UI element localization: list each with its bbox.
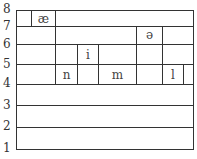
- y-label-1: 1: [3, 142, 11, 154]
- y-label-2: 2: [3, 120, 11, 132]
- y-label-8: 8: [3, 3, 11, 15]
- segment-l: l: [162, 64, 184, 85]
- segment-schwa-label: ə: [137, 28, 162, 42]
- segment-i: i: [77, 44, 99, 85]
- pitch-level-diagram: 8 7 6 5 4 3 2 1 æ n i m ə l: [0, 0, 197, 159]
- gridline-2: [16, 127, 194, 128]
- segment-m-label: m: [99, 68, 136, 82]
- y-label-6: 6: [3, 38, 11, 50]
- frame-left: [16, 10, 17, 150]
- gridline-3: [16, 105, 194, 106]
- segment-l-label: l: [163, 68, 183, 82]
- y-label-7: 7: [3, 20, 11, 32]
- segment-i-label: i: [78, 48, 98, 62]
- segment-ae: æ: [31, 10, 56, 27]
- gridline-6: [16, 44, 194, 45]
- y-label-5: 5: [3, 58, 11, 70]
- frame-right: [193, 10, 194, 150]
- segment-schwa: ə: [136, 26, 163, 85]
- y-label-3: 3: [3, 99, 11, 111]
- gridline-1: [16, 149, 194, 150]
- segment-n-label: n: [56, 68, 77, 82]
- segment-ae-label: æ: [32, 12, 55, 26]
- segment-m: m: [98, 64, 137, 85]
- y-label-4: 4: [3, 77, 11, 89]
- segment-n: n: [55, 64, 78, 85]
